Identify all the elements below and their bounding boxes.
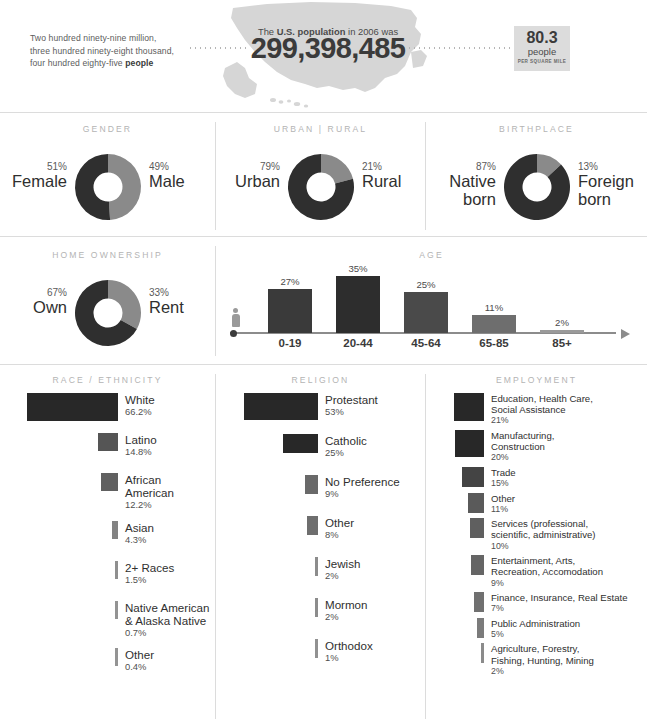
bar	[115, 648, 118, 666]
bar-track	[216, 557, 318, 576]
donut-legend-right: 33%Rent	[149, 286, 223, 317]
bar-label: Other	[491, 493, 647, 504]
bar-caption: Catholic25%	[318, 434, 432, 459]
bar-percent: 4.3%	[125, 534, 216, 546]
divider-row1-bottom	[0, 236, 647, 237]
bar-label: Finance, Insurance, Real Estate	[491, 592, 647, 603]
bar-item: Mormon2%	[216, 598, 432, 628]
population-in-words: Two hundred ninety-nine million, three h…	[30, 32, 240, 70]
population-words-people: people	[125, 58, 153, 68]
donut-legend-left: 67%Own	[0, 286, 67, 317]
bar-caption: Services (professional,scientific, admin…	[484, 518, 647, 552]
section-title-home-ownership: HOME OWNERSHIP	[0, 250, 215, 260]
bar-item: 2+ Races1.5%	[0, 561, 216, 591]
bar-label: Social Assistance	[491, 404, 647, 415]
age-bar-value: 35%	[336, 263, 380, 276]
bar	[455, 430, 484, 457]
bar-track	[216, 434, 318, 453]
donut-chart-birthplace: 87%Nativeborn13%Foreignborn	[426, 144, 647, 232]
population-density-badge: 80.3 people PER SQUARE MILE	[514, 26, 570, 71]
bar-label: No Preference	[325, 475, 432, 488]
bar	[477, 618, 484, 638]
age-bar-category: 0-19	[260, 333, 320, 349]
bar	[315, 639, 318, 658]
bar-label: Other	[325, 516, 432, 529]
bar-label: Construction	[491, 441, 647, 452]
age-bar	[404, 292, 448, 333]
bar-item: Public Administration5%	[426, 618, 647, 641]
bar-label: Manufacturing,	[491, 430, 647, 441]
bar	[481, 643, 484, 663]
bar-percent: 12.2%	[125, 499, 216, 511]
bar-track	[0, 433, 118, 451]
bar	[115, 601, 118, 619]
bar-percent: 9%	[325, 488, 432, 500]
bar-item: Education, Health Care,Social Assistance…	[426, 393, 647, 427]
bar	[315, 598, 318, 617]
donut-chart-gender: 51%Female49%Male	[0, 144, 215, 232]
bar-caption: Entertainment, Arts,Recreation, Accomoda…	[484, 555, 647, 589]
donut-ring	[71, 276, 145, 354]
bar-caption: Native American& Alaska Native0.7%	[118, 601, 216, 639]
bar-track	[0, 473, 118, 491]
bar-label: Trade	[491, 467, 647, 478]
bar-item: Catholic25%	[216, 434, 432, 464]
density-unit: people	[514, 46, 570, 57]
donut-label-left: Urban	[206, 173, 280, 191]
bar	[454, 393, 484, 421]
bar-track	[426, 555, 484, 575]
bar-percent: 25%	[325, 447, 432, 459]
bar-item: Protestant53%	[216, 393, 432, 423]
donut-chart-urban-rural: 79%Urban21%Rural	[216, 144, 425, 232]
age-bar-value: 11%	[472, 302, 516, 315]
bar-label: Mormon	[325, 598, 432, 611]
bar-caption: Latino14.8%	[118, 433, 216, 458]
bar-label: Agriculture, Forestry,	[491, 643, 647, 654]
bar-label: Orthodox	[325, 639, 432, 652]
header-section: Two hundred ninety-nine million, three h…	[0, 0, 647, 112]
bar	[462, 467, 484, 487]
person-icon	[230, 308, 241, 327]
bar-label: Native American	[125, 601, 216, 614]
bar-percent: 1.5%	[125, 574, 216, 586]
bar	[115, 561, 118, 579]
bar-item: Jewish2%	[216, 557, 432, 587]
bar-caption: Protestant53%	[318, 393, 432, 418]
age-bar-group: 25%45-64	[404, 292, 448, 333]
donut-label-left: Own	[0, 299, 67, 317]
section-title-gender: GENDER	[0, 124, 215, 134]
density-value: 80.3	[514, 29, 570, 46]
bar-item: Entertainment, Arts,Recreation, Accomoda…	[426, 555, 647, 589]
bar-track	[426, 618, 484, 638]
age-axis-arrow-icon	[621, 329, 630, 339]
donut-legend-left: 51%Female	[0, 160, 67, 191]
race-item-list: White66.2%Latino14.8%AfricanAmerican12.2…	[0, 393, 216, 688]
section-title-birthplace: BIRTHPLACE	[426, 124, 647, 134]
bar-item: Native American& Alaska Native0.7%	[0, 601, 216, 639]
bar-label: Latino	[125, 433, 216, 446]
bar-caption: Mormon2%	[318, 598, 432, 623]
bar-label: Catholic	[325, 434, 432, 447]
bar-label: Protestant	[325, 393, 432, 406]
bar-caption: 2+ Races1.5%	[118, 561, 216, 586]
bar-item: Services (professional,scientific, admin…	[426, 518, 647, 552]
donut-slice-secondary	[108, 280, 141, 329]
bar-item: No Preference9%	[216, 475, 432, 505]
donut-legend-right: 13%Foreignborn	[578, 160, 647, 208]
bar	[244, 393, 318, 420]
bar-label: Public Administration	[491, 618, 647, 629]
age-bar	[472, 315, 516, 333]
bar-percent: 15%	[491, 478, 647, 490]
donut-chart-home-ownership: 67%Own33%Rent	[0, 270, 215, 358]
bar-label: White	[125, 393, 216, 406]
age-bar-group: 11%65-85	[472, 315, 516, 333]
bar-track	[426, 430, 484, 457]
age-bar-group: 27%0-19	[268, 289, 312, 333]
bar-percent: 0.4%	[125, 661, 216, 673]
bar-percent: 2%	[325, 570, 432, 582]
bar-item: Asian4.3%	[0, 521, 216, 551]
age-bar	[336, 276, 380, 333]
infographic-page: Two hundred ninety-nine million, three h…	[0, 0, 647, 725]
bar-track	[426, 518, 484, 538]
bar-item: Other11%	[426, 493, 647, 516]
